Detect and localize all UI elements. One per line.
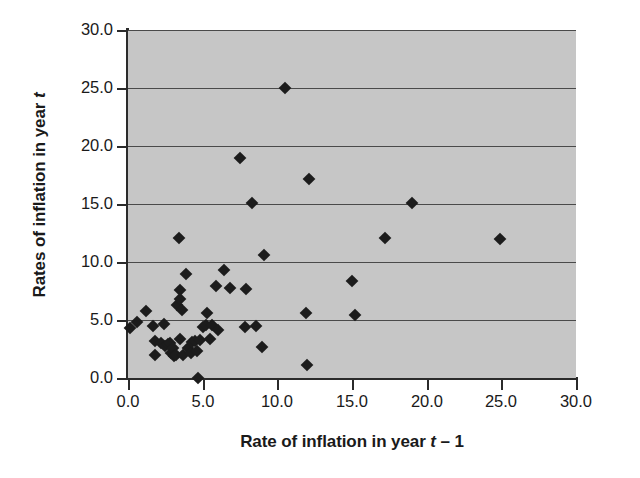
data-point	[299, 307, 312, 320]
y-tick-mark-20	[117, 146, 128, 148]
y-tick-label-10: 10.0	[49, 252, 113, 271]
x-tick-mark-0	[128, 380, 130, 390]
gridline-y-15	[128, 204, 576, 205]
x-tick-mark-20	[427, 380, 429, 390]
data-point	[278, 82, 291, 95]
gridline-y-10	[128, 262, 576, 263]
data-point	[405, 196, 418, 209]
y-tick-label-15: 15.0	[49, 194, 113, 213]
data-point	[246, 196, 259, 209]
data-point	[223, 281, 236, 294]
x-tick-mark-30	[576, 380, 578, 390]
data-point	[180, 267, 193, 280]
x-tick-mark-25	[501, 380, 503, 390]
x-tick-label-20: 20.0	[387, 392, 467, 411]
scatter-plot-figure: Rates of inflation in year t 0.05.010.01…	[0, 0, 640, 478]
y-tick-mark-5	[117, 320, 128, 322]
data-point	[240, 282, 253, 295]
plot-area	[128, 30, 576, 378]
y-tick-label-20: 20.0	[49, 136, 113, 155]
data-point	[172, 231, 185, 244]
x-tick-label-0: 0.0	[88, 392, 168, 411]
x-axis-title: Rate of inflation in year t – 1	[128, 432, 576, 452]
y-tick-label-25: 25.0	[49, 78, 113, 97]
gridline-y-25	[128, 88, 576, 89]
data-point	[140, 304, 153, 317]
data-point	[250, 319, 263, 332]
data-point	[493, 232, 506, 245]
x-axis-title-pre: Rate of inflation in year	[240, 432, 430, 451]
data-point	[302, 172, 315, 185]
data-point	[217, 264, 230, 277]
y-tick-mark-25	[117, 88, 128, 90]
y-tick-mark-10	[117, 262, 128, 264]
data-point	[238, 321, 251, 334]
data-point	[301, 359, 314, 372]
x-tick-label-5: 5.0	[163, 392, 243, 411]
data-point	[256, 340, 269, 353]
y-tick-mark-15	[117, 204, 128, 206]
data-point	[149, 348, 162, 361]
data-point	[147, 319, 160, 332]
data-point	[346, 274, 359, 287]
data-point	[234, 151, 247, 164]
data-point	[204, 332, 217, 345]
x-tick-label-30: 30.0	[536, 392, 616, 411]
gridline-y-20	[128, 146, 576, 147]
x-axis-title-post: – 1	[436, 432, 464, 451]
x-tick-label-10: 10.0	[237, 392, 317, 411]
gridline-y-30	[128, 30, 576, 31]
y-tick-label-5: 5.0	[49, 310, 113, 329]
data-point	[210, 280, 223, 293]
x-tick-mark-10	[277, 380, 279, 390]
x-tick-label-25: 25.0	[461, 392, 541, 411]
y-tick-label-0: 0.0	[49, 368, 113, 387]
gridline-y-5	[128, 320, 576, 321]
y-tick-mark-0	[117, 378, 128, 380]
x-tick-mark-15	[352, 380, 354, 390]
x-tick-mark-5	[203, 380, 205, 390]
data-point	[379, 231, 392, 244]
y-tick-mark-30	[117, 30, 128, 32]
data-point	[258, 249, 271, 262]
x-tick-label-15: 15.0	[312, 392, 392, 411]
y-tick-label-30: 30.0	[49, 20, 113, 39]
